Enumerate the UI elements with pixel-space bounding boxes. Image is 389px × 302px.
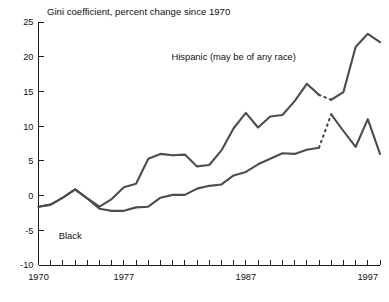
series-0-line-break [319,95,331,100]
y-tick-label-25: 25 [23,17,33,27]
y-tick-label-10: 10 [23,122,33,132]
x-tick-label-1987: 1987 [235,272,256,282]
x-tick-label-1970: 1970 [28,272,49,282]
x-tick-label-1977: 1977 [114,272,135,282]
y-tick-label--5: -5 [25,226,33,236]
series-0-line-pre-break [39,84,320,207]
series-1-line-break [319,114,331,147]
x-axis-ticks [51,260,380,266]
x-axis-tick-labels: 1970197719871997 [28,272,378,282]
series-1-line-pre-break [39,148,320,211]
series-0-line-post-break [331,34,380,100]
x-tick-label-1997: 1997 [357,272,378,282]
series-annotations: Hispanic (may be of any race)Black [59,51,296,240]
y-tick-label-0: 0 [28,191,33,201]
annotation-black: Black [59,230,82,241]
y-tick-label-20: 20 [23,52,33,62]
chart-canvas: -10-50510152025 1970197719871997 Gini co… [0,0,389,302]
y-axis-tick-labels: -10-50510152025 [20,17,33,270]
annotation-hispanic: Hispanic (may be of any race) [171,51,296,62]
y-tick-label-5: 5 [28,156,33,166]
chart-title: Gini coefficient, percent change since 1… [47,6,230,17]
series-1-line-post-break [331,114,380,154]
gini-coefficient-chart: -10-50510152025 1970197719871997 Gini co… [0,0,389,302]
y-tick-label-15: 15 [23,87,33,97]
y-axis-ticks [39,22,45,265]
y-tick-label--10: -10 [20,260,33,270]
